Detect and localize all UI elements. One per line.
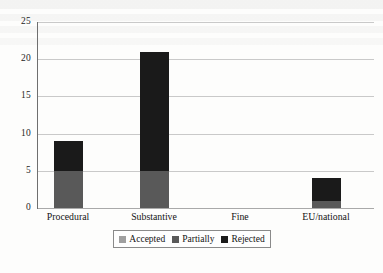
gridline-15 — [37, 96, 374, 97]
y-tick-label-5: 5 — [5, 165, 31, 175]
legend-label-partially: Partially — [182, 234, 214, 244]
legend-swatch-partially-icon — [172, 236, 179, 243]
bar-eu-national[interactable] — [312, 178, 341, 208]
legend-item-accepted[interactable]: Accepted — [119, 234, 165, 244]
y-tick-label-10: 10 — [5, 128, 31, 138]
x-tick-label-fine: Fine — [200, 211, 280, 222]
gridline-5 — [37, 171, 374, 172]
legend-item-partially[interactable]: Partially — [172, 234, 214, 244]
gridline-10 — [37, 134, 374, 135]
gridline-baseline-0 — [37, 208, 374, 209]
stacked-bar-chart: 25 20 15 10 5 0 Procedural Substantive F… — [0, 0, 383, 273]
legend-label-accepted: Accepted — [129, 234, 165, 244]
y-tick-label-15: 15 — [5, 90, 31, 100]
bar-segment-rejected — [54, 141, 83, 171]
bar-segment-partially — [140, 171, 169, 208]
legend-item-rejected[interactable]: Rejected — [221, 234, 264, 244]
gridline-20 — [37, 59, 374, 60]
x-tick-label-substantive: Substantive — [114, 211, 194, 222]
y-tick-label-20: 20 — [5, 53, 31, 63]
legend-label-rejected: Rejected — [231, 234, 264, 244]
y-tick-label-25: 25 — [5, 16, 31, 26]
chart-legend: Accepted Partially Rejected — [113, 230, 271, 248]
x-tick-label-procedural: Procedural — [28, 211, 108, 222]
bar-substantive[interactable] — [140, 52, 169, 208]
gridline-25 — [37, 22, 374, 23]
legend-swatch-accepted-icon — [119, 236, 126, 243]
y-axis-line — [37, 22, 38, 209]
bar-segment-partially — [312, 201, 341, 208]
bar-segment-partially — [54, 171, 83, 208]
legend-swatch-rejected-icon — [221, 236, 228, 243]
bar-segment-rejected — [140, 52, 169, 171]
bar-procedural[interactable] — [54, 141, 83, 208]
x-tick-label-eu-national: EU/national — [286, 211, 366, 222]
bar-segment-rejected — [312, 178, 341, 201]
